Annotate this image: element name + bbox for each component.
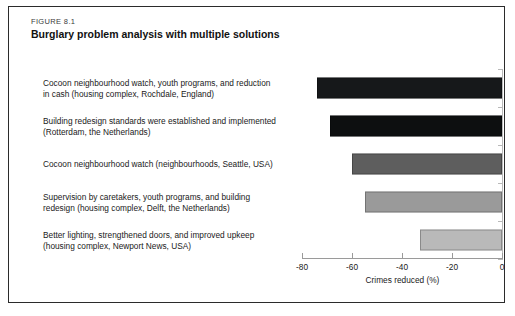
- bar: [420, 230, 503, 251]
- x-tick-mark: [302, 253, 303, 259]
- y-tick-mark: [498, 183, 503, 184]
- bar: [352, 154, 502, 175]
- bar-chart-row: Cocoon neighbourhood watch (neighbourhoo…: [9, 145, 506, 183]
- bar-chart-row: Building redesign standards were establi…: [9, 107, 506, 145]
- figure-container: FIGURE 8.1 Burglary problem analysis wit…: [8, 6, 505, 303]
- bar-category-label: Cocoon neighbourhood watch (neighbourhoo…: [43, 159, 293, 170]
- figure-title: Burglary problem analysis with multiple …: [31, 28, 471, 41]
- x-tick-label: -60: [332, 262, 372, 272]
- y-tick-mark: [498, 221, 503, 222]
- bar-track: [294, 69, 506, 107]
- bar-chart-row: Cocoon neighbourhood watch, youth progra…: [9, 69, 506, 107]
- bar: [365, 192, 503, 213]
- bar-category-label: Better lighting, strengthened doors, and…: [43, 230, 293, 251]
- bar-category-label-line2: in cash (housing complex, Rochdale, Engl…: [43, 88, 293, 99]
- x-tick-label: -80: [282, 262, 322, 272]
- y-tick-mark: [498, 259, 503, 260]
- figure-number: FIGURE 8.1: [31, 17, 471, 27]
- bar-track: [294, 183, 506, 221]
- x-tick-mark: [452, 253, 453, 259]
- bar-track: [294, 221, 506, 259]
- bar-chart-row: Better lighting, strengthened doors, and…: [9, 221, 506, 259]
- bar-category-label-line2: redesign (housing complex, Delft, the Ne…: [43, 202, 293, 213]
- y-tick-mark: [498, 69, 503, 70]
- bar: [317, 78, 502, 99]
- x-tick-mark: [352, 253, 353, 259]
- bar: [330, 116, 503, 137]
- x-axis-label: Crimes reduced (%): [302, 275, 503, 285]
- x-tick-label: -40: [382, 262, 422, 272]
- bar-category-label-line2: (Rotterdam, the Netherlands): [43, 126, 293, 137]
- bar-track: [294, 145, 506, 183]
- bar-track: [294, 107, 506, 145]
- y-tick-mark: [498, 107, 503, 108]
- bar-category-label: Supervision by caretakers, youth program…: [43, 192, 293, 213]
- bar-chart-row: Supervision by caretakers, youth program…: [9, 183, 506, 221]
- bar-category-label: Building redesign standards were establi…: [43, 116, 293, 137]
- y-tick-mark: [498, 145, 503, 146]
- bar-category-label: Cocoon neighbourhood watch, youth progra…: [43, 78, 293, 99]
- y-axis-line: [502, 69, 503, 259]
- x-tick-label: 0: [482, 262, 515, 272]
- x-tick-mark: [402, 253, 403, 259]
- figure-header: FIGURE 8.1 Burglary problem analysis wit…: [31, 17, 471, 41]
- x-tick-label: -20: [432, 262, 472, 272]
- bar-category-label-line2: (housing complex, Newport News, USA): [43, 240, 293, 251]
